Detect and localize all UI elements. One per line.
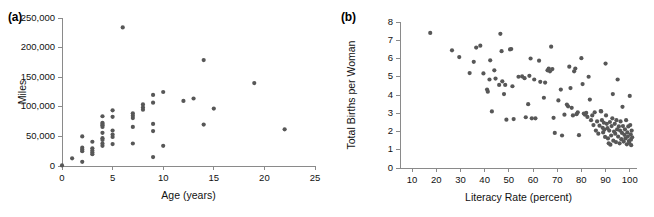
data-point xyxy=(566,104,570,108)
data-point xyxy=(628,123,632,127)
data-point xyxy=(617,124,621,128)
data-point xyxy=(80,149,84,153)
y-tick-label: 2 xyxy=(388,125,393,136)
data-point xyxy=(131,116,135,120)
data-point xyxy=(591,123,595,127)
panel-b-plot: 102030405060708090100012345678Literacy R… xyxy=(327,0,654,217)
data-point xyxy=(80,134,84,138)
x-tick-label: 30 xyxy=(455,174,466,185)
data-point xyxy=(202,58,206,62)
data-point xyxy=(560,133,564,137)
data-point xyxy=(524,115,528,119)
data-point xyxy=(498,32,502,36)
data-point xyxy=(543,80,547,84)
y-tick-label: 8 xyxy=(388,16,393,27)
data-point xyxy=(599,109,603,113)
x-tick-label: 90 xyxy=(600,174,611,185)
y-tick-label: 5 xyxy=(388,70,393,81)
data-point xyxy=(614,140,618,144)
x-axis-title: Age (years) xyxy=(161,189,215,201)
y-axis-title: Total Births per Woman xyxy=(345,40,357,149)
data-point xyxy=(487,77,491,81)
data-point xyxy=(580,82,584,86)
data-point xyxy=(568,86,572,90)
data-point xyxy=(527,74,531,78)
data-point xyxy=(607,128,611,132)
data-point xyxy=(100,131,104,135)
data-points-group xyxy=(428,31,634,147)
y-tick-label: 1 xyxy=(388,143,393,154)
data-point xyxy=(611,92,615,96)
data-point xyxy=(283,127,287,131)
data-point xyxy=(503,83,507,87)
data-point xyxy=(121,25,125,29)
data-point xyxy=(585,115,589,119)
x-tick-label: 40 xyxy=(479,174,490,185)
data-point xyxy=(587,75,591,79)
data-point xyxy=(549,45,553,49)
data-point xyxy=(526,102,530,106)
y-tick-label: 250,000 xyxy=(21,12,55,23)
y-tick-label: 4 xyxy=(388,89,393,100)
data-point xyxy=(457,55,461,59)
data-point xyxy=(161,90,165,94)
data-point xyxy=(90,140,94,144)
data-point xyxy=(624,118,628,122)
x-tick-label: 20 xyxy=(431,174,442,185)
data-point xyxy=(450,48,454,52)
data-point xyxy=(490,109,494,113)
x-tick-label: 80 xyxy=(576,174,587,185)
data-point xyxy=(151,122,155,126)
data-point xyxy=(533,116,537,120)
data-point xyxy=(191,96,195,100)
data-point xyxy=(589,118,593,122)
x-axis-title: Literacy Rate (percent) xyxy=(465,191,572,203)
y-tick-label: 200,000 xyxy=(21,41,55,52)
data-point xyxy=(492,68,496,72)
data-point xyxy=(60,163,64,167)
data-point xyxy=(553,131,557,135)
data-point xyxy=(570,106,574,110)
x-tick-label: 15 xyxy=(209,172,220,183)
x-tick-label: 70 xyxy=(552,174,563,185)
data-point xyxy=(481,71,485,75)
data-point xyxy=(474,45,478,49)
panel-a-plot: 0510152025050,000100,000150,000200,00025… xyxy=(0,0,327,217)
data-point xyxy=(530,116,534,120)
data-point xyxy=(522,76,526,80)
data-point xyxy=(488,58,492,62)
data-point xyxy=(141,108,145,112)
data-point xyxy=(252,81,256,85)
data-point xyxy=(616,77,620,81)
data-point xyxy=(617,141,621,145)
data-point xyxy=(608,120,612,124)
data-point xyxy=(428,31,432,35)
data-point xyxy=(630,135,634,139)
data-point xyxy=(111,108,115,112)
data-point xyxy=(542,96,546,100)
data-point xyxy=(610,116,614,120)
data-point xyxy=(111,135,115,139)
data-point xyxy=(628,94,632,98)
data-point xyxy=(100,125,104,129)
data-point xyxy=(532,77,536,81)
data-point xyxy=(576,110,580,114)
data-point xyxy=(70,156,74,160)
y-tick-label: 0 xyxy=(388,162,393,173)
panel-a-tag: (a) xyxy=(8,10,22,24)
y-tick-label: 0 xyxy=(50,160,55,171)
data-point xyxy=(111,115,115,119)
data-point xyxy=(551,116,555,120)
data-point xyxy=(573,66,577,70)
data-point xyxy=(620,105,624,109)
data-point xyxy=(504,118,508,122)
data-point xyxy=(630,128,634,132)
data-point xyxy=(604,113,608,117)
data-point xyxy=(181,99,185,103)
x-tick-label: 10 xyxy=(407,174,418,185)
y-tick-label: 6 xyxy=(388,52,393,63)
data-point xyxy=(502,92,506,96)
data-point xyxy=(131,141,135,145)
data-point xyxy=(613,122,617,126)
data-point xyxy=(151,129,155,133)
